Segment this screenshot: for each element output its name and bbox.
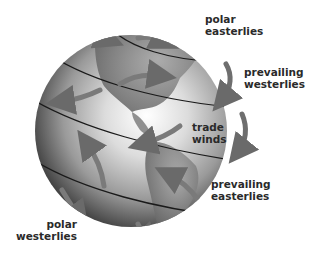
label-polar-westerlies: polar westerlies [16, 218, 77, 242]
globe-illustration [0, 0, 313, 255]
label-line: prevailing [211, 178, 271, 190]
label-trade-winds: trade winds [192, 121, 227, 145]
label-line: easterlies [211, 190, 271, 202]
arrow-rim-trade [238, 114, 245, 152]
greenland-landmass [170, 21, 204, 47]
label-line: prevailing [244, 66, 305, 78]
label-line: winds [192, 133, 227, 145]
label-prevailing-easterlies: prevailing easterlies [211, 178, 271, 202]
arrow-rim-westerly [222, 64, 230, 100]
label-line: easterlies [205, 25, 263, 37]
label-polar-easterlies: polar easterlies [205, 13, 263, 37]
label-line: polar [205, 13, 263, 25]
label-line: polar [16, 218, 77, 230]
label-line: westerlies [16, 230, 77, 242]
arrow-polar-westerly-2 [138, 224, 150, 242]
label-line: westerlies [244, 78, 305, 90]
label-line: trade [192, 121, 227, 133]
label-prevailing-westerlies: prevailing westerlies [244, 66, 305, 90]
wind-belts-diagram: polar easterlies prevailing westerlies t… [0, 0, 313, 255]
